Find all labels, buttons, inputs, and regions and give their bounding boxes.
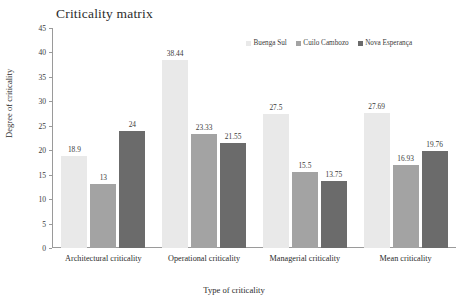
y-tick-label: 25 [38,121,46,130]
y-tick-mark [49,150,52,151]
y-tick-mark [49,101,52,102]
bar-column: 16.93 [393,28,419,248]
bar-column: 38.44 [162,28,188,248]
y-tick-label: 40 [38,48,46,57]
bar[interactable] [191,134,217,248]
bar-groups: 18.91324Architectural criticality38.4423… [53,28,456,248]
bar-column: 23.33 [191,28,217,248]
y-tick-label: 45 [38,24,46,33]
bar-value-label: 13 [100,173,107,182]
bar-group: 18.91324Architectural criticality [53,28,154,248]
bar-value-label: 24 [129,120,136,129]
bar-value-label: 23.33 [196,123,213,132]
y-tick-mark [49,224,52,225]
bar-value-label: 38.44 [167,49,184,58]
y-tick-label: 35 [38,72,46,81]
bar[interactable] [393,165,419,248]
chart-title: Criticality matrix [56,6,153,22]
bar[interactable] [90,184,116,248]
y-tick-label: 30 [38,97,46,106]
bar-value-label: 27.69 [368,102,385,111]
bar-value-label: 21.55 [225,132,242,141]
bar[interactable] [263,114,289,248]
bar-value-label: 18.9 [68,145,81,154]
bar[interactable] [292,172,318,248]
plot-area: 051015202530354045 18.91324Architectural… [52,28,456,248]
bar-column: 13 [90,28,116,248]
x-category-label: Managerial criticality [255,254,356,263]
bar-value-label: 19.76 [426,140,443,149]
bar-group-bars: 38.4423.3321.55 [154,28,255,248]
y-tick-mark [49,52,52,53]
bar[interactable] [422,151,448,248]
y-tick-label: 15 [38,170,46,179]
y-tick-mark [49,175,52,176]
bar-column: 21.55 [220,28,246,248]
x-category-label: Architectural criticality [53,254,154,263]
y-tick-mark [49,28,52,29]
bar-column: 13.75 [321,28,347,248]
y-tick-mark [49,199,52,200]
bar[interactable] [321,181,347,248]
bar-group-bars: 18.91324 [53,28,154,248]
bar[interactable] [364,113,390,248]
bar[interactable] [61,156,87,248]
bar-column: 27.5 [263,28,289,248]
y-tick-label: 5 [42,219,46,228]
bar-group: 27.6916.9319.76Mean criticality [355,28,456,248]
criticality-matrix-chart: Criticality matrix Buenga SulCuilo Cambo… [0,0,468,308]
bar-column: 15.5 [292,28,318,248]
bar-group-bars: 27.6916.9319.76 [355,28,456,248]
y-tick-mark [49,77,52,78]
bar-value-label: 27.5 [269,103,282,112]
y-tick-mark [49,248,52,249]
bar-value-label: 16.93 [397,154,414,163]
x-category-label: Mean criticality [355,254,456,263]
bar-group-bars: 27.515.513.75 [255,28,356,248]
x-axis-title: Type of criticality [0,285,468,295]
bar-column: 18.9 [61,28,87,248]
y-tick-label: 0 [42,244,46,253]
bar-column: 19.76 [422,28,448,248]
bar[interactable] [162,60,188,248]
bar-value-label: 13.75 [326,170,343,179]
y-tick-label: 10 [38,195,46,204]
x-category-label: Operational criticality [154,254,255,263]
bar[interactable] [220,143,246,248]
y-axis-title: Degree of criticality [4,69,14,138]
bar-value-label: 15.5 [298,161,311,170]
y-tick-label: 20 [38,146,46,155]
bar-group: 38.4423.3321.55Operational criticality [154,28,255,248]
bar-group: 27.515.513.75Managerial criticality [255,28,356,248]
y-tick-mark [49,126,52,127]
bar-column: 24 [119,28,145,248]
bar-column: 27.69 [364,28,390,248]
bar[interactable] [119,131,145,248]
